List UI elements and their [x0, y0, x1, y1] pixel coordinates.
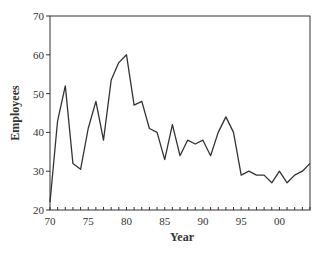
y-axis-label: Employees [8, 85, 22, 141]
y-axis: 203040506070 [33, 10, 50, 216]
x-tick-label: 80 [121, 215, 133, 227]
y-tick-label: 70 [33, 10, 45, 22]
y-tick-label: 50 [33, 88, 45, 100]
x-tick-label: 95 [236, 215, 248, 227]
plot-frame [50, 16, 310, 210]
x-tick-label: 70 [45, 215, 57, 227]
x-tick-label: 90 [197, 215, 209, 227]
x-tick-label: 75 [83, 215, 95, 227]
y-tick-label: 60 [33, 49, 45, 61]
line-chart: 203040506070 70758085909500 Year Employe… [0, 0, 334, 254]
y-tick-label: 40 [33, 126, 45, 138]
x-tick-label: 00 [274, 215, 286, 227]
employees-line [50, 55, 310, 202]
y-tick-label: 30 [33, 165, 45, 177]
x-tick-label: 85 [159, 215, 171, 227]
x-axis-label: Year [170, 230, 195, 244]
y-tick-label: 20 [33, 204, 45, 216]
